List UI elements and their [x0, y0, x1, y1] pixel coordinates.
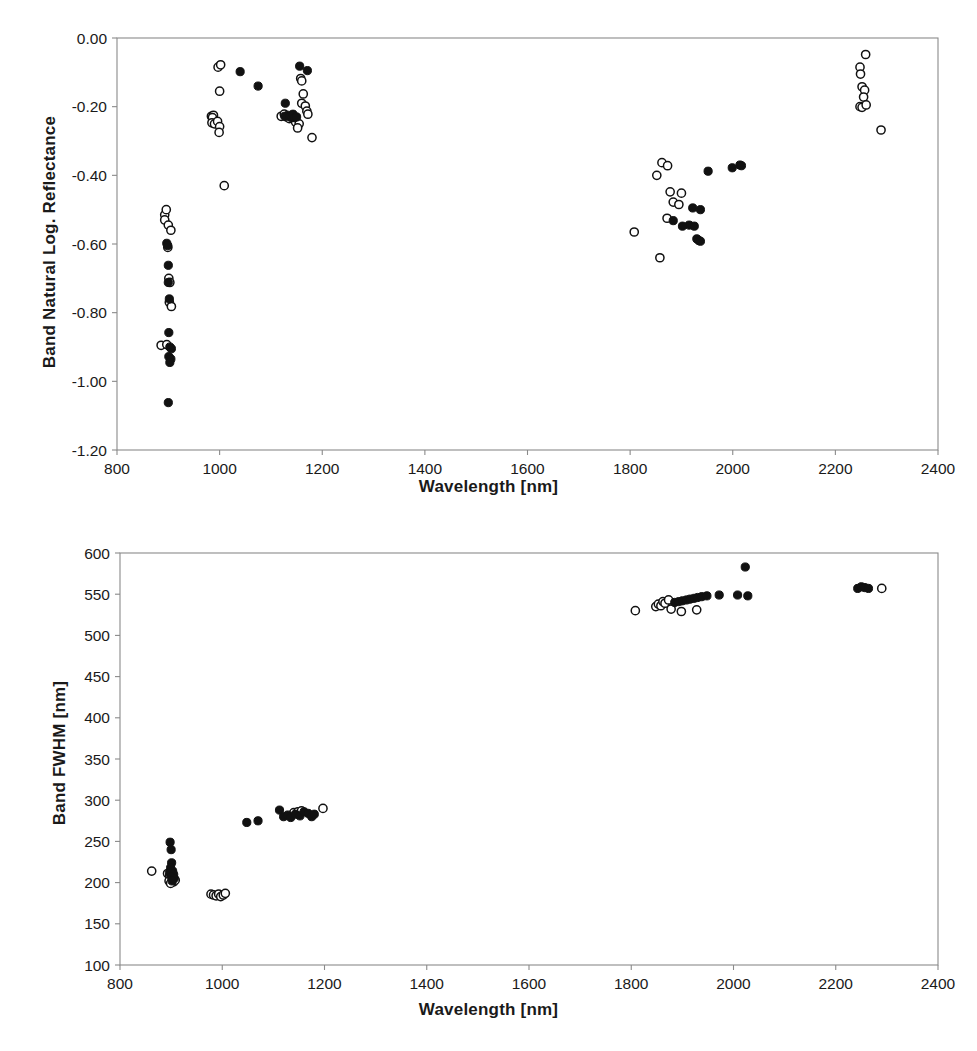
- data-point-open: [319, 804, 327, 812]
- data-point-filled: [864, 584, 872, 592]
- data-point-filled: [715, 591, 723, 599]
- data-point-filled: [166, 358, 174, 366]
- y-axis-tick-label: 500: [84, 627, 110, 644]
- data-point-filled: [164, 261, 172, 269]
- data-point-filled: [741, 563, 749, 571]
- data-point-filled: [310, 810, 318, 818]
- x-axis-tick-label: 1800: [613, 460, 648, 477]
- data-point-open: [862, 50, 870, 58]
- data-point-filled: [164, 242, 172, 250]
- data-point-open: [860, 93, 868, 101]
- data-point-filled: [733, 591, 741, 599]
- y-axis-tick-label: 550: [84, 586, 110, 603]
- data-point-open: [298, 77, 306, 85]
- data-point-filled: [690, 222, 698, 230]
- data-point-filled: [303, 67, 311, 75]
- chart-panel-top: 0.00-0.20-0.40-0.60-0.80-1.00-1.20800100…: [0, 0, 977, 515]
- data-point-open: [630, 228, 638, 236]
- data-point-open: [220, 182, 228, 190]
- data-point-filled: [166, 838, 174, 846]
- data-point-open: [148, 867, 156, 875]
- data-point-filled: [254, 817, 262, 825]
- data-point-filled: [696, 206, 704, 214]
- data-point-open: [216, 87, 224, 95]
- data-point-open: [862, 101, 870, 109]
- x-axis-tick-label: 1400: [408, 460, 443, 477]
- x-axis-tick-label: 1600: [512, 975, 547, 992]
- series-open-markers: [148, 584, 886, 900]
- data-point-open: [215, 128, 223, 136]
- data-point-open: [653, 171, 661, 179]
- y-axis-tick-label: -0.80: [72, 304, 108, 321]
- x-axis-tick-label: 1000: [205, 975, 240, 992]
- data-point-filled: [167, 846, 175, 854]
- data-point-filled: [728, 164, 736, 172]
- data-point-open: [631, 607, 639, 615]
- x-axis-tick-label: 1800: [614, 975, 649, 992]
- y-axis-tick-label: -1.20: [72, 442, 108, 459]
- data-point-open: [666, 188, 674, 196]
- x-axis-tick-label: 2400: [921, 975, 956, 992]
- x-axis-tick-label: 1400: [410, 975, 445, 992]
- data-point-filled: [703, 592, 711, 600]
- x-axis-tick-label: 2400: [921, 460, 956, 477]
- data-point-open: [856, 70, 864, 78]
- data-point-open: [877, 126, 885, 134]
- y-axis-title-bottom: Band FWHM [nm]: [50, 543, 70, 963]
- data-point-open: [878, 584, 886, 592]
- plot-frame: [117, 38, 938, 450]
- scatter-plot-fwhm: 1001502002503003504004505005506008001000…: [0, 515, 977, 1051]
- data-point-filled: [167, 345, 175, 353]
- x-axis-tick-label: 1600: [510, 460, 545, 477]
- y-axis-tick-label: 350: [84, 751, 110, 768]
- data-point-filled: [744, 592, 752, 600]
- data-point-open: [217, 61, 225, 69]
- x-axis-tick-label: 800: [104, 460, 130, 477]
- data-point-filled: [296, 62, 304, 70]
- x-axis-title-top: Wavelength [nm]: [0, 477, 977, 497]
- chart-panel-bottom: 1001502002503003504004505005506008001000…: [0, 515, 977, 1051]
- data-point-open: [656, 254, 664, 262]
- data-point-filled: [243, 818, 251, 826]
- y-axis-tick-label: -0.20: [72, 98, 108, 115]
- plot-frame: [120, 553, 938, 965]
- x-axis-tick-label: 2200: [819, 975, 854, 992]
- data-point-open: [167, 226, 175, 234]
- data-point-open: [294, 124, 302, 132]
- data-point-filled: [254, 82, 262, 90]
- data-point-filled: [689, 204, 697, 212]
- data-point-open: [663, 162, 671, 170]
- data-point-open: [308, 133, 316, 141]
- x-axis-title-bottom: Wavelength [nm]: [0, 1000, 977, 1020]
- y-axis-tick-label: 150: [84, 915, 110, 932]
- y-axis-title-top: Band Natural Log. Reflectance: [40, 32, 60, 452]
- y-axis-tick-label: 250: [84, 833, 110, 850]
- data-point-filled: [165, 328, 173, 336]
- x-axis-tick-label: 2000: [716, 975, 751, 992]
- data-point-open: [167, 302, 175, 310]
- x-axis-tick-label: 1000: [202, 460, 237, 477]
- y-axis-tick-label: -0.40: [72, 167, 108, 184]
- data-point-open: [677, 607, 685, 615]
- data-point-open: [675, 200, 683, 208]
- y-axis-tick-label: 0.00: [77, 30, 108, 47]
- data-point-filled: [669, 217, 677, 225]
- data-point-filled: [168, 877, 176, 885]
- y-axis-tick-label: 450: [84, 668, 110, 685]
- data-point-open: [693, 606, 701, 614]
- data-point-open: [304, 110, 312, 118]
- y-axis-tick-label: 100: [84, 957, 110, 974]
- x-axis-tick-label: 800: [107, 975, 133, 992]
- data-point-open: [162, 206, 170, 214]
- x-axis-tick-label: 1200: [307, 975, 342, 992]
- data-point-filled: [696, 237, 704, 245]
- data-point-filled: [678, 222, 686, 230]
- data-point-filled: [164, 399, 172, 407]
- y-axis-tick-label: 200: [84, 874, 110, 891]
- data-point-filled: [704, 167, 712, 175]
- data-point-filled: [292, 113, 300, 121]
- y-axis-tick-label: -0.60: [72, 236, 108, 253]
- data-point-open: [677, 189, 685, 197]
- series-filled-markers: [163, 62, 746, 407]
- figure-container: 0.00-0.20-0.40-0.60-0.80-1.00-1.20800100…: [0, 0, 977, 1051]
